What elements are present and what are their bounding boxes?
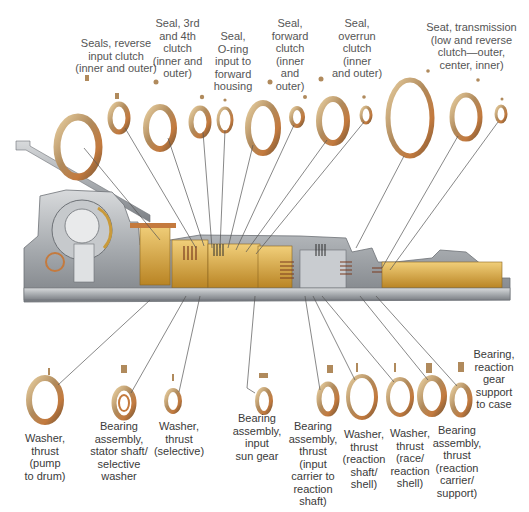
- label-seal-oring-input-forward-housing: Seal, O-ring input to forward housing: [208, 30, 258, 93]
- label-bearing-thrust-input-carrier-reaction-shaft: Bearing assembly, thrust (input carrier …: [284, 420, 342, 508]
- label-washer-thrust-selective: Washer, thrust (selective): [152, 420, 206, 458]
- label-bearing-reaction-gear-support-to-case: Bearing, reaction gear support to case: [470, 348, 518, 411]
- label-bearing-input-sun-gear: Bearing assembly, input sun gear: [228, 412, 286, 462]
- label-seal-overrun-clutch: Seal, overrun clutch (inner and outer): [327, 17, 387, 80]
- label-washer-thrust-race-reaction-shell: Washer, thrust (race/ reaction shell): [386, 427, 434, 490]
- transmission-diagram: Seals, reverse input clutch (inner and o…: [0, 0, 529, 512]
- label-seal-3rd-4th-clutch: Seal, 3rd and 4th clutch (inner and oute…: [150, 17, 205, 80]
- label-seal-forward-clutch: Seal, forward clutch (inner and outer): [266, 17, 314, 92]
- label-bearing-stator-shaft-selective-washer: Bearing assembly, stator shaft/ selectiv…: [88, 420, 150, 483]
- transmission-housing: [16, 141, 510, 302]
- label-seat-transmission-low-reverse: Seat, transmission (low and reverse clut…: [414, 21, 529, 71]
- label-washer-thrust-pump-to-drum: Washer, thrust (pump to drum): [20, 432, 70, 482]
- label-bearing-thrust-reaction-carrier-support: Bearing assembly, thrust (reaction carri…: [431, 424, 483, 499]
- label-washer-thrust-reaction-shaft-shell: Washer, thrust (reaction shaft/ shell): [340, 428, 388, 491]
